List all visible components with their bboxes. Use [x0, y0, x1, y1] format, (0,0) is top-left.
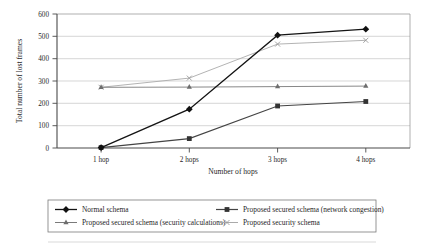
- y-tick-label-100: 100: [38, 122, 49, 130]
- chart-legend: Normal schema Proposed secured schema (n…: [48, 200, 384, 232]
- y-tick-label-200: 200: [38, 100, 49, 108]
- x-tick-label-4-hops: 4 hops: [356, 156, 375, 164]
- y-axis-title: Total number of lost frames: [15, 39, 24, 123]
- square-marker-icon: [225, 207, 230, 212]
- x-tick-label-3-hops: 3 hops: [268, 156, 287, 164]
- legend-label-normal-schema: Normal schema: [82, 205, 129, 214]
- x-tick-label-2-hops: 2 hops: [180, 156, 199, 164]
- y-tick-label-0: 0: [45, 145, 49, 153]
- y-axis-ticks: [53, 14, 58, 148]
- y-tick-label-400: 400: [38, 55, 49, 63]
- y-tick-label-500: 500: [38, 33, 49, 41]
- line-chart: 600 500 400 300 200 100 0 1 hop 2 hops 3…: [0, 0, 424, 248]
- x-axis-title: Number of hops: [208, 167, 257, 176]
- legend-label-proposed-security-schema: Proposed security schema: [243, 218, 320, 227]
- chart-figure: 600 500 400 300 200 100 0 1 hop 2 hops 3…: [0, 0, 424, 248]
- legend-label-network-congestion: Proposed secured schema (network congest…: [243, 205, 384, 214]
- legend-item-normal-schema[interactable]: Normal schema: [55, 205, 129, 214]
- y-tick-label-600: 600: [38, 11, 49, 19]
- legend-label-security-calculations: Proposed secured schema (security calcul…: [82, 218, 226, 227]
- y-tick-label-300: 300: [38, 78, 49, 86]
- x-tick-label-1-hop: 1 hop: [93, 156, 110, 164]
- x-axis-ticks: [101, 148, 366, 153]
